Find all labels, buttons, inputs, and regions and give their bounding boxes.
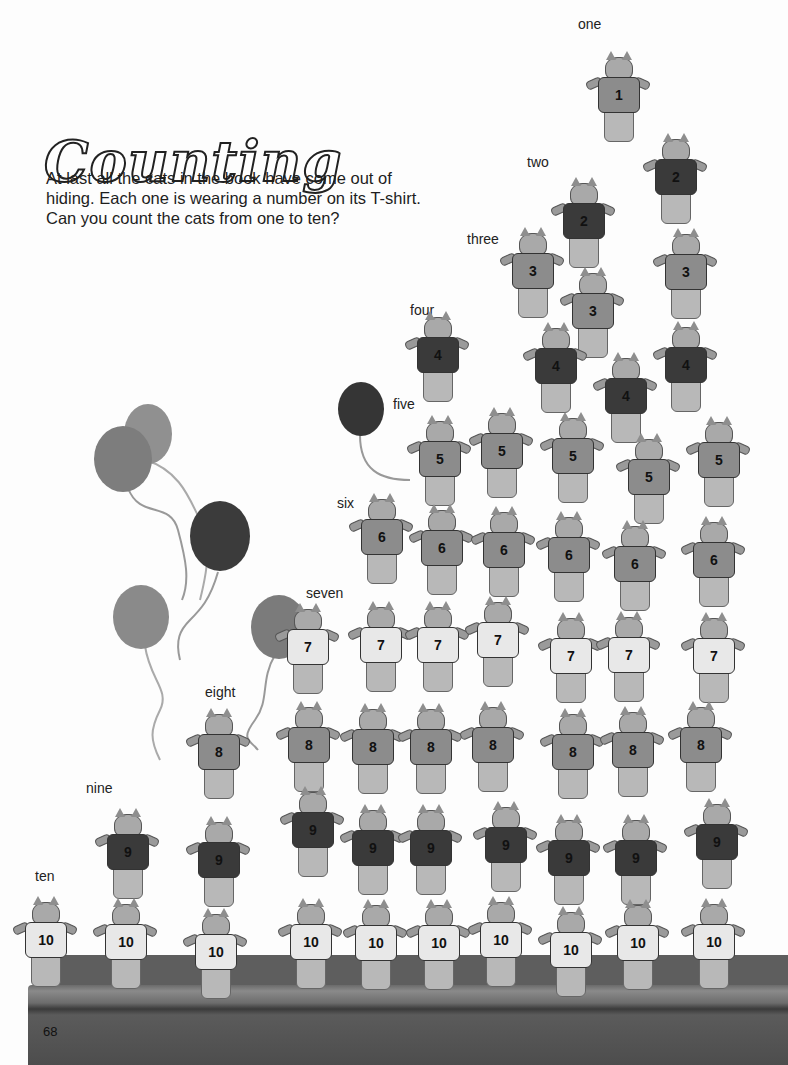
- cat-8: 8: [544, 714, 600, 800]
- cat-shirt-number: 10: [105, 924, 147, 960]
- cat-10: 10: [609, 905, 665, 991]
- cat-9: 9: [190, 822, 246, 908]
- cat-legs: [556, 965, 586, 997]
- cat-legs: [204, 767, 234, 799]
- cat-shirt-number: 9: [485, 827, 527, 863]
- cat-7: 7: [279, 609, 335, 695]
- cat-shirt-number: 3: [572, 293, 614, 329]
- cat-shirt-number: 4: [417, 337, 459, 373]
- cat-legs: [358, 762, 388, 794]
- cat-5: 5: [544, 418, 600, 504]
- cat-8: 8: [672, 707, 728, 793]
- cat-shirt-number: 5: [698, 442, 740, 478]
- cat-shirt-number: 10: [480, 922, 522, 958]
- cat-shirt-number: 10: [195, 934, 237, 970]
- cat-7: 7: [685, 618, 741, 704]
- cat-shirt-number: 9: [107, 834, 149, 870]
- cat-7: 7: [409, 607, 465, 693]
- cat-shirt-number: 7: [417, 627, 459, 663]
- cat-shirt-number: 4: [665, 347, 707, 383]
- cat-legs: [604, 110, 634, 142]
- cat-7: 7: [352, 607, 408, 693]
- cat-legs: [671, 380, 701, 412]
- balloon: [113, 585, 169, 649]
- cat-shirt-number: 8: [288, 727, 330, 763]
- cat-legs: [686, 760, 716, 792]
- cat-10: 10: [472, 902, 528, 988]
- cat-6: 6: [606, 526, 662, 612]
- cat-9: 9: [540, 820, 596, 906]
- cat-shirt-number: 3: [512, 253, 554, 289]
- cat-6: 6: [685, 522, 741, 608]
- cat-shirt-number: 9: [198, 842, 240, 878]
- cat-legs: [366, 660, 396, 692]
- cat-shirt-number: 8: [198, 734, 240, 770]
- cat-legs: [423, 660, 453, 692]
- cat-shirt-number: 6: [421, 530, 463, 566]
- cat-legs: [423, 370, 453, 402]
- cat-shirt-number: 10: [550, 932, 592, 968]
- cat-4: 4: [597, 358, 653, 444]
- cat-shirt-number: 10: [617, 925, 659, 961]
- cat-legs: [296, 957, 326, 989]
- cat-legs: [416, 863, 446, 895]
- cat-legs: [111, 957, 141, 989]
- cat-5: 5: [473, 413, 529, 499]
- cat-legs: [614, 670, 644, 702]
- cat-shirt-number: 6: [361, 519, 403, 555]
- cat-legs: [361, 958, 391, 990]
- cat-shirt-number: 8: [552, 734, 594, 770]
- stage: [28, 985, 788, 1065]
- cat-9: 9: [344, 810, 400, 896]
- cat-2: 2: [555, 183, 611, 269]
- cat-legs: [113, 867, 143, 899]
- cat-8: 8: [344, 709, 400, 795]
- cat-legs: [518, 286, 548, 318]
- cat-legs: [699, 671, 729, 703]
- cat-shirt-number: 9: [292, 812, 334, 848]
- cat-1: 1: [590, 57, 646, 143]
- cat-shirt-number: 10: [418, 925, 460, 961]
- cat-legs: [620, 579, 650, 611]
- cat-10: 10: [410, 905, 466, 991]
- cat-5: 5: [690, 422, 746, 508]
- cat-8: 8: [464, 707, 520, 793]
- cat-6: 6: [540, 517, 596, 603]
- cat-10: 10: [685, 904, 741, 990]
- cat-shirt-number: 4: [535, 348, 577, 384]
- cat-10: 10: [17, 902, 73, 988]
- cat-legs: [554, 570, 584, 602]
- cat-10: 10: [97, 904, 153, 990]
- cat-legs: [702, 857, 732, 889]
- cat-legs: [704, 475, 734, 507]
- cat-shirt-number: 4: [605, 378, 647, 414]
- cat-9: 9: [477, 807, 533, 893]
- cat-5: 5: [620, 439, 676, 525]
- cat-legs: [293, 662, 323, 694]
- cat-shirt-number: 6: [614, 546, 656, 582]
- cat-7: 7: [469, 602, 525, 688]
- cat-6: 6: [413, 510, 469, 596]
- cat-legs: [298, 845, 328, 877]
- cat-8: 8: [604, 712, 660, 798]
- cat-legs: [424, 958, 454, 990]
- cat-legs: [367, 552, 397, 584]
- cat-shirt-number: 9: [615, 840, 657, 876]
- cat-shirt-number: 9: [410, 830, 452, 866]
- cat-shirt-number: 8: [352, 729, 394, 765]
- cat-4: 4: [409, 317, 465, 403]
- cat-shirt-number: 9: [696, 824, 738, 860]
- cat-8: 8: [280, 707, 336, 793]
- cat-5: 5: [411, 421, 467, 507]
- cat-9: 9: [607, 820, 663, 906]
- cat-10: 10: [542, 912, 598, 998]
- cat-10: 10: [347, 905, 403, 991]
- cat-shirt-number: 7: [693, 638, 735, 674]
- cat-legs: [558, 767, 588, 799]
- cat-shirt-number: 8: [472, 727, 514, 763]
- cat-legs: [541, 381, 571, 413]
- balloon: [94, 426, 152, 492]
- cat-7: 7: [542, 618, 598, 704]
- cat-4: 4: [657, 327, 713, 413]
- cat-shirt-number: 5: [628, 459, 670, 495]
